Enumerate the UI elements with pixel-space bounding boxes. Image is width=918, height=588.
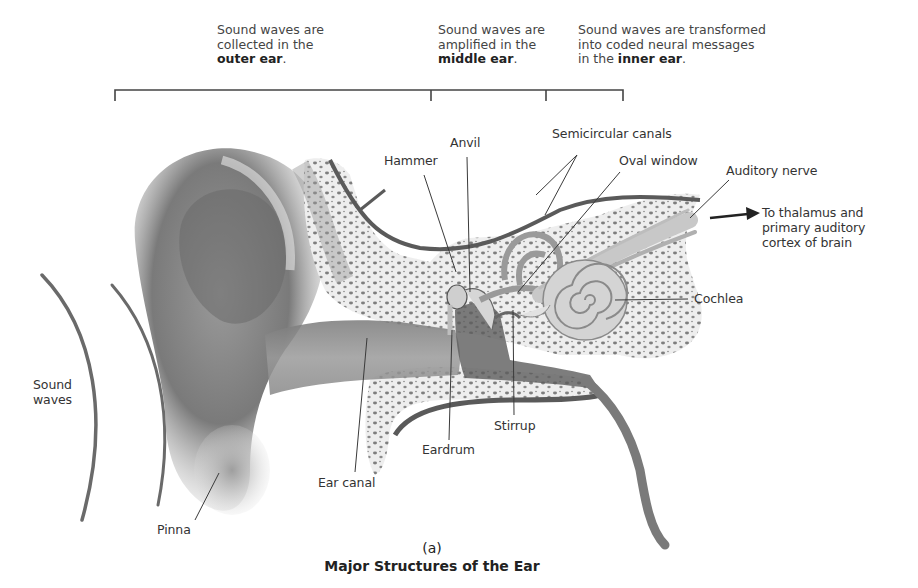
stage-inner-suffix: .: [682, 51, 686, 66]
stage-middle-suffix: .: [513, 51, 517, 66]
label-cochlea: Cochlea: [694, 292, 743, 306]
label-brain-destination: To thalamus and primary auditory cortex …: [762, 205, 865, 250]
label-hammer: Hammer: [384, 154, 438, 168]
stage-outer-ear-text: Sound waves are collected in the outer e…: [217, 23, 324, 67]
label-sound-waves-line2: waves: [33, 392, 72, 407]
label-semicircular-canals: Semicircular canals: [552, 127, 672, 141]
stage-middle-line1: Sound waves are: [438, 22, 545, 37]
label-brain-line3: cortex of brain: [762, 235, 865, 250]
label-ear-canal: Ear canal: [318, 476, 375, 490]
stage-inner-ear-text: Sound waves are transformed into coded n…: [578, 23, 766, 67]
label-sound-waves: Sound waves: [33, 377, 72, 407]
label-eardrum: Eardrum: [422, 443, 475, 457]
stage-middle-emph: middle ear: [438, 51, 513, 66]
arrow-to-brain-icon: [710, 207, 760, 220]
stage-outer-suffix: .: [283, 51, 287, 66]
label-oval-window: Oval window: [619, 154, 698, 168]
stage-inner-line1: Sound waves are transformed: [578, 22, 766, 37]
label-sound-waves-line1: Sound: [33, 377, 72, 392]
stage-inner-emph: inner ear: [618, 51, 682, 66]
label-auditory-nerve: Auditory nerve: [726, 164, 817, 178]
label-pinna: Pinna: [157, 523, 191, 537]
label-brain-line1: To thalamus and: [762, 205, 865, 220]
stage-middle-ear-text: Sound waves are amplified in the middle …: [438, 23, 545, 67]
stage-middle-line2: amplified in the: [438, 37, 536, 52]
label-brain-line2: primary auditory: [762, 220, 865, 235]
figure-letter: (a): [422, 540, 442, 556]
stage-inner-prefix: in the: [578, 51, 618, 66]
label-stirrup: Stirrup: [494, 419, 536, 433]
ear-illustration: [0, 0, 918, 588]
eustachian-tube: [585, 380, 665, 545]
stage-inner-line2: into coded neural messages: [578, 37, 754, 52]
label-anvil: Anvil: [450, 136, 480, 150]
stage-outer-emph: outer ear: [217, 51, 283, 66]
stage-outer-line1: Sound waves are: [217, 22, 324, 37]
stage-bracket: [115, 90, 623, 101]
stage-outer-line2: collected in the: [217, 37, 313, 52]
figure-title: Major Structures of the Ear: [324, 558, 539, 574]
